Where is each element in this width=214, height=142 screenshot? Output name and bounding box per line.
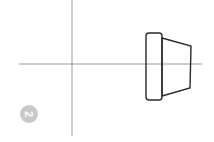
part-tapered-body (162, 38, 191, 96)
step-number-badge: 2 (20, 105, 38, 123)
part-flange (146, 33, 162, 100)
